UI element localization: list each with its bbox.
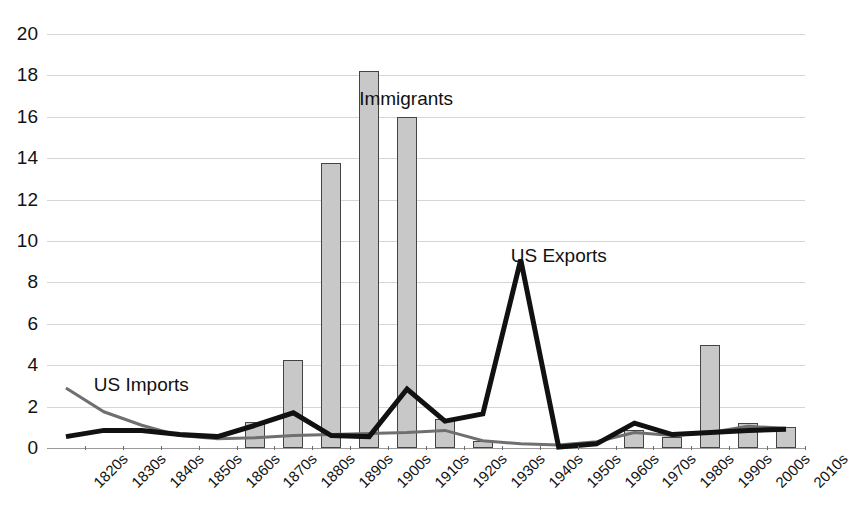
x-tickmark: [502, 446, 503, 450]
line-us-exports: [66, 260, 786, 447]
x-tickmark: [199, 446, 200, 450]
x-tickmark: [729, 446, 730, 450]
x-axis: 1820s1830s1840s1850s1860s1870s1880s1890s…: [47, 450, 805, 518]
x-tick-label: 1940s: [545, 450, 586, 491]
x-tick-label: 1880s: [317, 450, 358, 491]
x-tick-label: 1890s: [355, 450, 396, 491]
y-tick-label: 10: [17, 231, 38, 250]
y-tick-label: 6: [27, 314, 38, 333]
x-tick-label: 1980s: [696, 450, 737, 491]
x-tick-label: 1860s: [242, 450, 283, 491]
y-tick-label: 16: [17, 107, 38, 126]
y-tick-label: 4: [27, 355, 38, 374]
x-tickmark: [274, 446, 275, 450]
x-tick-label: 1950s: [583, 450, 624, 491]
x-tick-label: 1840s: [166, 450, 207, 491]
x-tickmark: [161, 446, 162, 450]
x-tickmark: [237, 446, 238, 450]
x-tickmark: [123, 446, 124, 450]
x-tickmark: [805, 446, 806, 450]
x-tick-label: 1850s: [204, 450, 245, 491]
x-tickmark: [426, 446, 427, 450]
y-tick-label: 12: [17, 190, 38, 209]
y-tick-label: 20: [17, 24, 38, 43]
y-axis: 20181614121086420: [0, 0, 38, 518]
x-tickmark: [464, 446, 465, 450]
x-tick-label: 1960s: [621, 450, 662, 491]
x-tickmark: [767, 446, 768, 450]
x-tick-label: 1920s: [469, 450, 510, 491]
series-label-us-exports: US Exports: [511, 245, 607, 267]
x-tick-label: 2010s: [810, 450, 851, 491]
y-tick-label: 14: [17, 148, 38, 167]
x-tick-label: 1900s: [393, 450, 434, 491]
y-tick-label: 2: [27, 397, 38, 416]
y-tick-label: 18: [17, 65, 38, 84]
x-tickmark: [85, 446, 86, 450]
x-tick-label: 1830s: [128, 450, 169, 491]
plot-area: US ImportsImmigrantsUS Exports: [47, 34, 805, 448]
x-tick-label: 1970s: [658, 450, 699, 491]
x-tickmark: [653, 446, 654, 450]
x-tick-label: 1870s: [279, 450, 320, 491]
x-tickmark: [578, 446, 579, 450]
x-tickmark: [388, 446, 389, 450]
x-tick-label: 1930s: [507, 450, 548, 491]
x-tick-label: 2000s: [772, 450, 813, 491]
x-tick-label: 1820s: [90, 450, 131, 491]
x-tickmark: [312, 446, 313, 450]
x-tickmark: [691, 446, 692, 450]
x-tick-label: 1990s: [734, 450, 775, 491]
series-label-immigrants: Immigrants: [359, 88, 453, 110]
x-tick-label: 1910s: [431, 450, 472, 491]
x-tickmark: [350, 446, 351, 450]
x-tickmark: [616, 446, 617, 450]
series-label-us-imports: US Imports: [94, 374, 189, 396]
y-tick-label: 8: [27, 272, 38, 291]
x-tickmark: [540, 446, 541, 450]
y-tick-label: 0: [27, 438, 38, 457]
